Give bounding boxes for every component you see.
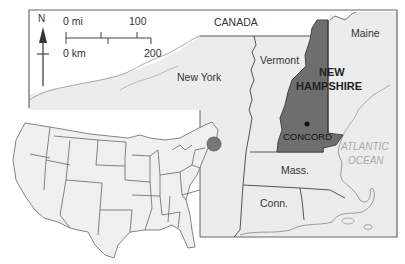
label-new-york: New York — [177, 72, 221, 83]
nh-locator-dot — [207, 137, 221, 151]
label-vermont: Vermont — [260, 55, 299, 66]
label-nh-line2: HAMPSHIRE — [296, 81, 362, 92]
scale-mi-start: 0 mi — [63, 16, 83, 27]
label-ocean-line2: OCEAN — [348, 156, 384, 166]
us-inset-map — [13, 122, 218, 258]
label-maine: Maine — [351, 28, 380, 39]
map-canvas — [0, 0, 405, 264]
label-ocean-line1: ATLANTIC — [341, 142, 389, 152]
north-arrow — [37, 27, 49, 86]
compass-label: N — [38, 14, 45, 24]
label-capital: CONCORD — [283, 132, 332, 142]
us-outline — [13, 122, 218, 258]
scale-mi-end: 100 — [129, 16, 147, 27]
scale-km-end: 200 — [144, 48, 162, 59]
label-conn: Conn. — [260, 198, 288, 209]
label-nh-line1: NEW — [319, 67, 345, 78]
label-mass: Mass. — [281, 165, 309, 176]
capital-dot — [305, 122, 310, 127]
label-canada: CANADA — [214, 17, 258, 28]
scale-km-start: 0 km — [63, 48, 86, 59]
scale-bar — [66, 32, 151, 44]
